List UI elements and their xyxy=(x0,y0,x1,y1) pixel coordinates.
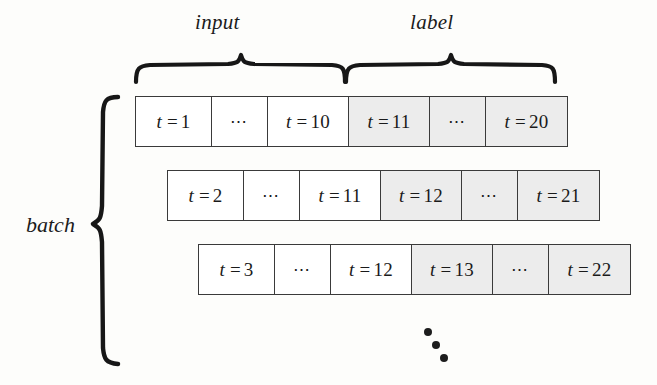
input-brace-icon xyxy=(136,55,345,82)
timestep-cell: t=1 xyxy=(136,97,212,146)
timestep-cell: t=22 xyxy=(549,245,630,294)
input-section-label: input xyxy=(195,10,240,35)
ellipsis-cell: ⋯ xyxy=(212,97,268,146)
batch-brace-icon xyxy=(93,97,118,364)
batch-label: batch xyxy=(26,212,75,238)
ellipsis-cell: ⋯ xyxy=(275,245,331,294)
ellipsis-cell: ⋯ xyxy=(462,171,518,220)
sliding-window-batch-figure: input label batch t=1 ⋯ t=10 t=11 ⋯ t=20… xyxy=(0,0,657,385)
dot xyxy=(440,354,448,362)
timestep-cell: t=12 xyxy=(331,245,412,294)
timestep-cell: t=3 xyxy=(199,245,275,294)
dot xyxy=(424,328,432,336)
label-brace-icon xyxy=(346,55,555,82)
ellipsis-cell: ⋯ xyxy=(493,245,549,294)
timestep-cell: t=2 xyxy=(168,171,244,220)
timestep-cell: t=11 xyxy=(349,97,430,146)
timestep-cell: t=21 xyxy=(518,171,599,220)
continuation-dots-icon xyxy=(424,328,458,368)
timestep-cell: t=11 xyxy=(300,171,381,220)
batch-row: t=2 ⋯ t=11 t=12 ⋯ t=21 xyxy=(167,170,600,221)
timestep-cell: t=13 xyxy=(412,245,493,294)
dot xyxy=(432,341,440,349)
ellipsis-cell: ⋯ xyxy=(430,97,486,146)
batch-row: t=3 ⋯ t=12 t=13 ⋯ t=22 xyxy=(198,244,631,295)
timestep-cell: t=10 xyxy=(268,97,349,146)
batch-row: t=1 ⋯ t=10 t=11 ⋯ t=20 xyxy=(135,96,568,147)
ellipsis-cell: ⋯ xyxy=(244,171,300,220)
timestep-cell: t=12 xyxy=(381,171,462,220)
timestep-cell: t=20 xyxy=(486,97,567,146)
label-section-label: label xyxy=(410,10,454,35)
